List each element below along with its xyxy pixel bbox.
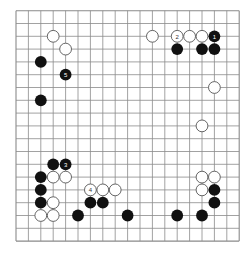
stone-circle — [47, 30, 59, 42]
black-stone — [209, 184, 221, 196]
white-stone — [47, 30, 59, 42]
white-stone — [47, 210, 59, 222]
stone-circle — [147, 30, 159, 42]
black-stone — [72, 210, 84, 222]
stone-circle — [35, 197, 47, 209]
black-stone — [196, 43, 208, 55]
stone-circle — [35, 94, 47, 106]
white-stone — [47, 197, 59, 209]
stone-circle — [209, 171, 221, 183]
black-stone — [35, 197, 47, 209]
black-stone — [209, 197, 221, 209]
go-board[interactable]: 52134 — [0, 0, 252, 257]
black-stone: 3 — [60, 158, 72, 170]
stone-circle — [72, 210, 84, 222]
stone-circle — [47, 210, 59, 222]
stone-circle — [209, 82, 221, 94]
stone-circle — [209, 43, 221, 55]
white-stone — [147, 30, 159, 42]
white-stone — [47, 171, 59, 183]
black-stone — [85, 197, 97, 209]
black-stone — [35, 184, 47, 196]
stone-circle — [196, 30, 208, 42]
black-stone: 5 — [60, 69, 72, 81]
white-stone: 4 — [85, 184, 97, 196]
white-stone — [196, 184, 208, 196]
black-stone — [35, 94, 47, 106]
black-stone — [122, 210, 134, 222]
stone-circle — [47, 197, 59, 209]
black-stone — [196, 210, 208, 222]
black-stone — [47, 158, 59, 170]
stone-circle — [85, 197, 97, 209]
white-stone — [196, 30, 208, 42]
black-stone — [35, 56, 47, 68]
stone-circle — [196, 43, 208, 55]
stone-circle — [60, 43, 72, 55]
stone-circle — [196, 171, 208, 183]
stone-circle — [209, 197, 221, 209]
stone-circle — [35, 210, 47, 222]
white-stone — [196, 120, 208, 132]
stone-circle — [184, 30, 196, 42]
stone-circle — [47, 158, 59, 170]
stone-circle — [47, 171, 59, 183]
black-stone — [35, 171, 47, 183]
white-stone — [60, 43, 72, 55]
white-stone — [35, 210, 47, 222]
stone-circle — [60, 171, 72, 183]
black-stone — [209, 43, 221, 55]
white-stone — [209, 82, 221, 94]
white-stone — [109, 184, 121, 196]
stone-circle — [122, 210, 134, 222]
white-stone — [184, 30, 196, 42]
stone-circle — [209, 184, 221, 196]
white-stone — [196, 171, 208, 183]
stone-circle — [171, 43, 183, 55]
stone-circle — [97, 197, 109, 209]
stone-circle — [109, 184, 121, 196]
white-stone — [60, 171, 72, 183]
black-stone — [171, 43, 183, 55]
stone-circle — [35, 184, 47, 196]
white-stone: 2 — [171, 30, 183, 42]
stone-circle — [35, 171, 47, 183]
stone-circle — [35, 56, 47, 68]
white-stone — [97, 184, 109, 196]
stone-circle — [196, 184, 208, 196]
stone-circle — [196, 210, 208, 222]
black-stone: 1 — [209, 30, 221, 42]
stone-circle — [196, 120, 208, 132]
black-stone — [171, 210, 183, 222]
stone-circle — [97, 184, 109, 196]
white-stone — [209, 171, 221, 183]
black-stone — [97, 197, 109, 209]
stone-circle — [171, 210, 183, 222]
